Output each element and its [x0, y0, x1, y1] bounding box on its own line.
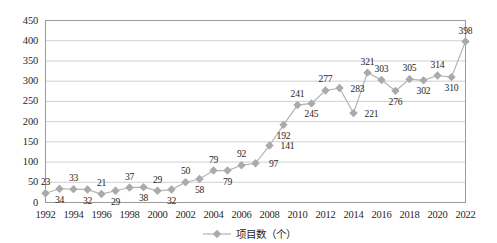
y-axis-tick-label: 250: [8, 96, 38, 106]
data-point-marker: [209, 166, 217, 174]
legend-marker-icon: [202, 228, 232, 240]
data-point-label: 32: [159, 196, 185, 206]
data-point-label: 29: [103, 197, 129, 207]
data-point-label: 38: [131, 193, 157, 203]
y-axis-tick-label: 400: [8, 36, 38, 46]
data-point-label: 310: [439, 83, 465, 93]
y-axis-tick-label: 150: [8, 137, 38, 147]
y-axis-tick-label: 450: [8, 16, 38, 26]
data-point-label: 314: [425, 60, 451, 70]
data-point-label: 79: [201, 155, 227, 165]
data-point-marker: [461, 37, 469, 45]
data-point-marker: [69, 185, 77, 193]
data-point-marker: [349, 109, 357, 117]
y-axis-tick-label: 350: [8, 56, 38, 66]
data-point-marker: [125, 183, 133, 191]
data-point-label: 303: [369, 64, 395, 74]
data-point-label: 192: [271, 131, 297, 141]
data-point-label: 23: [33, 177, 59, 187]
data-point-marker: [447, 73, 455, 81]
x-axis-tick-label: 2022: [449, 209, 483, 220]
data-point-label: 34: [47, 195, 73, 205]
data-point-label: 283: [345, 84, 371, 94]
data-point-label: 29: [145, 175, 171, 185]
data-point-marker: [419, 76, 427, 84]
data-point-label: 33: [61, 173, 87, 183]
data-point-label: 245: [299, 109, 325, 119]
chart-legend: 项目数（个）: [0, 226, 497, 241]
data-point-label: 398: [453, 26, 479, 36]
data-point-label: 305: [397, 63, 423, 73]
data-point-label: 79: [215, 177, 241, 187]
data-point-label: 21: [89, 178, 115, 188]
data-point-label: 276: [383, 97, 409, 107]
data-point-label: 241: [285, 89, 311, 99]
data-point-label: 32: [75, 196, 101, 206]
line-chart: 050100150200250300350400450 199219941996…: [0, 0, 497, 243]
data-point-marker: [167, 185, 175, 193]
y-axis-tick-label: 300: [8, 76, 38, 86]
data-point-marker: [223, 166, 231, 174]
data-point-label: 302: [411, 86, 437, 96]
data-point-label: 92: [229, 149, 255, 159]
data-point-label: 50: [173, 166, 199, 176]
y-axis-tick-label: 200: [8, 117, 38, 127]
y-axis-tick-label: 0: [8, 198, 38, 208]
grid-lines: [46, 21, 466, 203]
legend-label-item-count: 项目数（个）: [236, 226, 296, 241]
data-point-label: 277: [313, 74, 339, 84]
data-point-marker: [433, 71, 441, 79]
data-point-label: 141: [275, 141, 301, 151]
data-point-label: 37: [117, 172, 143, 182]
data-point-label: 221: [359, 109, 385, 119]
chart-plot-area: [0, 0, 497, 243]
plot-frame: [46, 21, 466, 203]
y-axis-tick-label: 100: [8, 157, 38, 167]
data-point-label: 97: [261, 159, 287, 169]
data-point-label: 58: [187, 185, 213, 195]
data-point-marker: [335, 84, 343, 92]
data-point-marker: [293, 101, 301, 109]
